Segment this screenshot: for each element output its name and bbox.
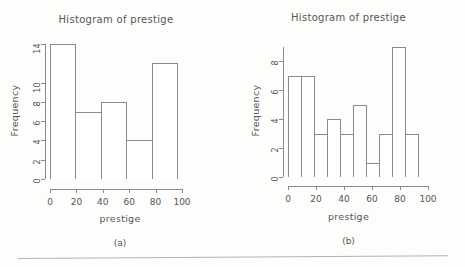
x-axis-line-a	[50, 189, 182, 190]
x-tick-label: 100	[167, 197, 197, 207]
y-tick-label: 10	[33, 82, 42, 96]
x-tick-mark	[129, 189, 130, 193]
plot-area-a	[50, 44, 182, 179]
histogram-bar	[50, 44, 76, 179]
chart-title-a: Histogram of prestige	[0, 14, 232, 25]
y-tick-label: 2	[33, 159, 42, 173]
x-tick-mark	[103, 189, 104, 193]
x-tick-label: 80	[385, 194, 415, 204]
chart-title-b: Histogram of prestige	[232, 12, 465, 23]
y-tick-mark	[279, 119, 283, 120]
x-tick-mark	[372, 186, 373, 190]
y-tick-mark	[279, 177, 283, 178]
x-axis-title-b: prestige	[232, 211, 465, 222]
y-tick-mark	[41, 179, 45, 180]
y-tick-mark	[41, 121, 45, 122]
histogram-bar	[392, 47, 406, 177]
histogram-bar	[379, 134, 393, 177]
x-tick-label: 20	[301, 194, 331, 204]
x-axis-line-b	[288, 186, 428, 187]
histogram-bar	[314, 134, 328, 177]
y-tick-label: 4	[33, 140, 42, 154]
x-tick-mark	[288, 186, 289, 190]
histogram-bar	[366, 163, 380, 177]
histogram-panel-a: Histogram of prestige Frequency 02468101…	[0, 0, 232, 267]
x-axis-title-a: prestige	[4, 213, 236, 224]
x-tick-label: 40	[329, 194, 359, 204]
x-tick-mark	[182, 189, 183, 193]
y-tick-label: 2	[271, 148, 280, 162]
y-tick-label: 8	[33, 101, 42, 115]
y-tick-mark	[279, 61, 283, 62]
y-axis-title-b: Frequency	[250, 76, 261, 146]
y-tick-mark	[41, 44, 45, 45]
y-tick-mark	[41, 83, 45, 84]
x-tick-mark	[428, 186, 429, 190]
panel-caption-a: (a)	[4, 238, 236, 248]
y-tick-label: 6	[271, 90, 280, 104]
y-tick-label: 14	[33, 44, 42, 58]
y-axis-line-b	[283, 47, 284, 177]
histogram-bar	[353, 105, 367, 177]
y-tick-label: 6	[33, 121, 42, 135]
histogram-bar	[126, 140, 152, 179]
histogram-bar	[152, 63, 178, 179]
histogram-bar	[288, 76, 302, 177]
y-tick-mark	[279, 148, 283, 149]
x-tick-mark	[156, 189, 157, 193]
x-tick-mark	[76, 189, 77, 193]
x-tick-label: 60	[357, 194, 387, 204]
figure-canvas: Histogram of prestige Frequency 02468101…	[0, 0, 465, 267]
y-tick-label: 0	[271, 177, 280, 191]
y-tick-mark	[41, 140, 45, 141]
plot-area-b	[288, 47, 428, 177]
histogram-bar	[101, 102, 127, 179]
histogram-bar	[301, 76, 315, 177]
x-tick-label: 0	[273, 194, 303, 204]
x-tick-mark	[50, 189, 51, 193]
bar-series-a	[50, 44, 182, 179]
histogram-bar	[327, 119, 341, 177]
y-tick-label: 4	[271, 119, 280, 133]
bar-series-b	[288, 47, 428, 177]
y-tick-mark	[41, 102, 45, 103]
x-tick-mark	[344, 186, 345, 190]
y-tick-label: 0	[33, 179, 42, 193]
x-tick-mark	[316, 186, 317, 190]
y-axis-title-a: Frequency	[9, 76, 20, 146]
x-tick-mark	[400, 186, 401, 190]
histogram-bar	[405, 134, 419, 177]
panel-caption-b: (b)	[232, 236, 465, 246]
y-tick-mark	[41, 160, 45, 161]
x-tick-label: 100	[413, 194, 443, 204]
y-tick-mark	[279, 90, 283, 91]
histogram-bar	[340, 134, 354, 177]
y-axis-line-a	[45, 44, 46, 179]
histogram-bar	[75, 112, 101, 180]
y-tick-label: 8	[271, 61, 280, 75]
